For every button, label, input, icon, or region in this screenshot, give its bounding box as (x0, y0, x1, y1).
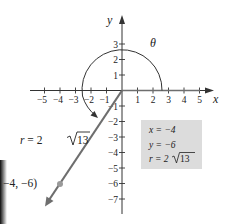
radius-label: r = 2 13 (20, 132, 90, 146)
info-y-value: y = −6 (148, 140, 176, 150)
y-axis-label: y (106, 13, 113, 27)
y-tick-label: 3 (113, 40, 118, 50)
y-axis-arrow-icon (119, 15, 125, 24)
x-tick-label: −4 (53, 95, 63, 105)
theta-label: θ (150, 36, 156, 50)
svg-text:r = 2: r = 2 (20, 134, 43, 146)
y-tick-label: −2 (108, 117, 118, 127)
point-label: −4, −6) (3, 177, 37, 190)
point-marker (57, 181, 63, 187)
y-tick-label: −6 (108, 179, 118, 189)
x-axis-label: x (212, 92, 219, 106)
info-box: x = −4 y = −6 r = 2 13 (141, 120, 202, 169)
page-edge-shadow (0, 160, 7, 224)
info-r-value: r = 2 (149, 154, 169, 164)
x-tick-label: −3 (68, 95, 78, 105)
x-tick-label: 1 (135, 95, 140, 105)
svg-text:13: 13 (77, 134, 89, 146)
x-tick-label: −5 (37, 95, 47, 105)
y-tick-label: 2 (113, 55, 118, 65)
x-tick-label: 2 (151, 95, 156, 105)
y-tick-label: 1 (113, 71, 118, 81)
x-tick-label: 5 (197, 95, 202, 105)
y-tick-label: −3 (108, 133, 118, 143)
y-tick-label: −4 (108, 148, 118, 158)
x-tick-label: 4 (182, 95, 187, 105)
info-r-radicand: 13 (180, 154, 190, 164)
y-tick-label: −7 (108, 195, 118, 205)
x-tick-label: 3 (166, 95, 171, 105)
polar-angle-diagram: −5 −4 −3 −2 −1 1 2 3 4 5 x (0, 0, 227, 224)
y-axis: 1 2 3 −1 −2 −3 −4 −5 −6 −7 y (106, 13, 125, 214)
info-x-value: x = −4 (148, 125, 176, 135)
y-tick-label: −5 (108, 164, 118, 174)
